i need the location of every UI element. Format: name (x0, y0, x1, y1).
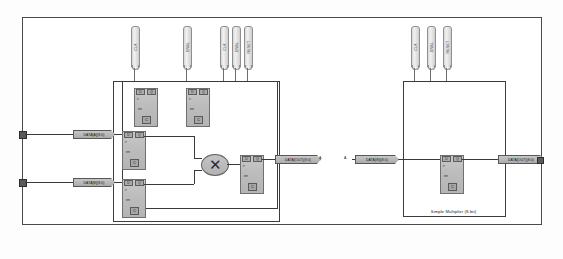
register-in-a-clock-label: C (130, 159, 139, 167)
register-out[interactable]: D Q > en C (240, 155, 264, 194)
input-terminal-b[interactable] (19, 179, 27, 187)
multiply-symbol: ✕ (202, 155, 228, 175)
register-out-port-q: Q (253, 156, 262, 162)
schematic-canvas: Simple Multiplier (8-bit) CLK ENBL CLK E… (0, 0, 563, 259)
wire-regb-into-mult (194, 170, 202, 171)
pin-clk-1-label: CLK (134, 43, 138, 51)
pin-reset-2-stem (446, 68, 447, 81)
wire-rega-into-mult (194, 158, 202, 159)
pin-enbl-2[interactable]: ENBL (232, 26, 241, 68)
register-in-a[interactable]: D Q > en C (122, 131, 146, 170)
net-label-right-junction: A (344, 156, 346, 160)
pin-enbl-3-stem (430, 68, 431, 81)
wire-mult-to-regout (227, 164, 240, 165)
pin-clk-3-stem (414, 68, 415, 81)
register-right-clock-label: C (448, 183, 457, 191)
register-right[interactable]: D Q > en C (440, 155, 464, 194)
pin-reset-1-stem (247, 68, 248, 81)
register-clk-a-port-q: Q (147, 89, 156, 95)
register-in-b[interactable]: D Q > en C (122, 179, 146, 218)
register-clk-b-port-d: D (188, 89, 197, 95)
bus-tag-right-in[interactable]: DATA[IN](8:0) (355, 155, 399, 164)
register-right-port-q: Q (453, 156, 462, 162)
module-caption-simple-multiplier: Simple Multiplier (8-bit) (403, 209, 504, 214)
register-out-enable-label: en (244, 174, 248, 178)
wire-module-top-rail (122, 81, 278, 82)
bus-tag-input-b[interactable]: DATA[B](8:0) (73, 178, 115, 187)
pin-clk-2-label: CLK (223, 43, 227, 51)
register-out-port-d: D (242, 156, 251, 162)
register-clk-a-clock-label: C (142, 116, 151, 124)
wire-regb-to-mult (144, 184, 194, 185)
register-in-a-port-d: D (124, 132, 133, 138)
output-terminal[interactable] (537, 157, 544, 164)
register-in-a-direction-icon: > (125, 140, 127, 144)
register-clk-a-enable-label: en (138, 107, 142, 111)
module-boundary-simple-multiplier[interactable] (403, 81, 506, 217)
register-in-b-enable-label: en (126, 198, 130, 202)
register-clk-a-port-d: D (136, 89, 145, 95)
register-in-a-enable-label: en (126, 150, 130, 154)
register-right-enable-label: en (444, 174, 448, 178)
register-in-b-direction-icon: > (125, 188, 127, 192)
register-clk-b-clock-label: C (194, 116, 203, 124)
bus-tag-core-out[interactable]: DATA[OUT](8:0) (275, 155, 321, 164)
register-clk-b-enable-label: en (190, 107, 194, 111)
wire-right-reg-in (404, 159, 440, 160)
register-out-clock-label: C (248, 183, 257, 191)
pin-reset-2-label: RESET (446, 41, 450, 54)
net-label-left-junction: A (319, 156, 321, 160)
pin-clk-2-stem (223, 68, 224, 81)
pin-reset-1-label: RESET (247, 41, 251, 54)
register-clk-b-port-q: Q (199, 89, 208, 95)
register-clk-a[interactable]: D Q > en C (134, 88, 158, 127)
wire-module-right-rail (277, 81, 278, 208)
register-clk-a-direction-icon: > (137, 97, 139, 101)
pin-clk-2[interactable]: CLK (220, 26, 229, 68)
pin-enbl-3-label: ENBL (430, 42, 434, 52)
pin-reset-2[interactable]: RESET (443, 26, 452, 68)
pin-enbl-3[interactable]: ENBL (427, 26, 436, 68)
register-clk-b[interactable]: D Q > en C (186, 88, 210, 127)
bus-tag-input-a[interactable]: DATA[A](8:0) (73, 130, 115, 139)
pin-clk-1[interactable]: CLK (131, 26, 140, 68)
wire-rega-to-mult (144, 136, 194, 137)
register-right-direction-icon: > (443, 164, 445, 168)
register-clk-b-direction-icon: > (189, 97, 191, 101)
multiply-operator[interactable]: ✕ (201, 154, 229, 176)
wire-regb-rise (194, 170, 195, 184)
wire-right-top-rail (412, 81, 504, 82)
pin-clk-3[interactable]: CLK (411, 26, 420, 68)
pin-enbl-1[interactable]: ENBL (183, 26, 192, 68)
register-in-b-port-d: D (124, 180, 133, 186)
register-in-b-clock-label: C (130, 207, 139, 215)
pin-enbl-1-label: ENBL (186, 42, 190, 52)
pin-enbl-1-stem (186, 68, 187, 81)
pin-enbl-2-stem (235, 68, 236, 81)
register-in-a-port-q: Q (135, 132, 144, 138)
wire-rega-drop (194, 136, 195, 158)
register-in-b-port-q: Q (135, 180, 144, 186)
input-terminal-a[interactable] (19, 131, 27, 139)
register-right-port-d: D (442, 156, 451, 162)
pin-clk-3-label: CLK (414, 43, 418, 51)
register-out-direction-icon: > (243, 164, 245, 168)
pin-clk-1-stem (134, 68, 135, 81)
pin-reset-1[interactable]: RESET (244, 26, 253, 68)
pin-enbl-2-label: ENBL (235, 42, 239, 52)
